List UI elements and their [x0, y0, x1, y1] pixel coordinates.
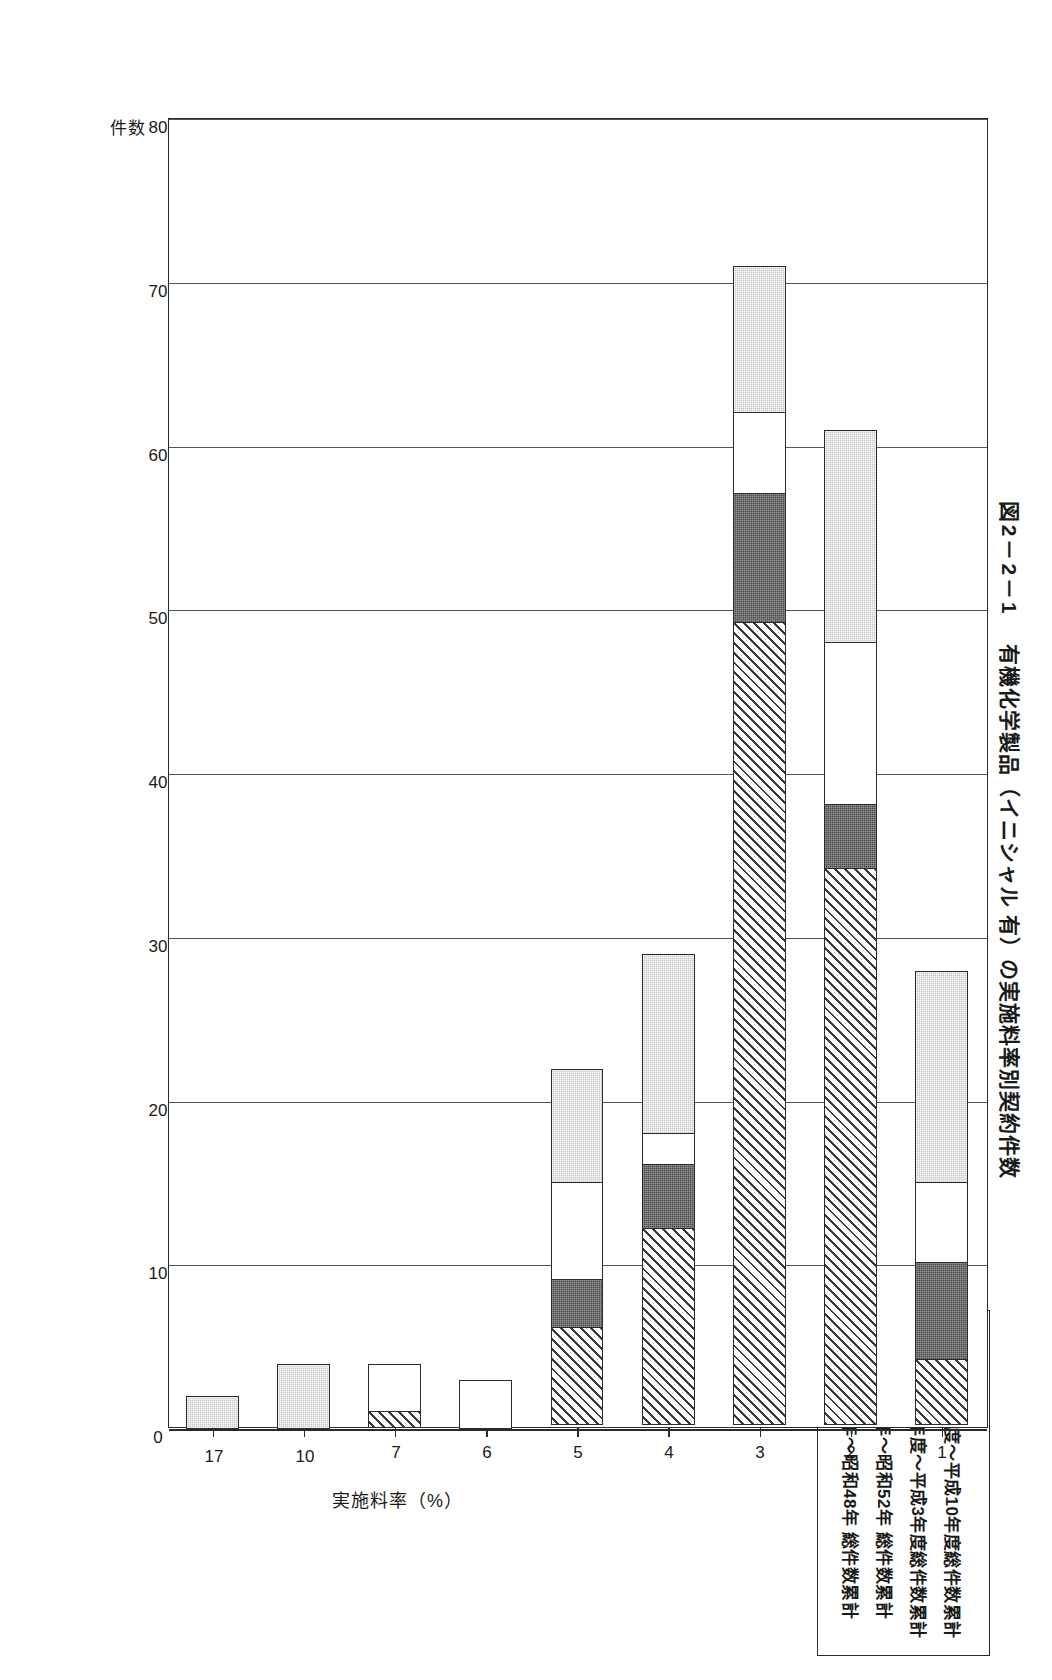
category-axis-tick-label: 5 [573, 1443, 582, 1463]
bar-segment [642, 954, 695, 1134]
bar-segment [824, 430, 877, 643]
gridline [169, 119, 987, 120]
category-axis-tick-label: 1 [938, 1443, 947, 1463]
value-axis-tick-label: 40 [149, 773, 168, 793]
bar [642, 954, 695, 1429]
bar-segment [915, 1359, 968, 1425]
bar [551, 1069, 604, 1429]
category-axis-tick-label: 3 [756, 1443, 765, 1463]
bar-segment [915, 1262, 968, 1360]
category-axis-tick-label: 10 [295, 1447, 314, 1467]
category-tick [486, 1428, 487, 1437]
category-axis-tick-label: 17 [204, 1447, 223, 1467]
category-tick [577, 1428, 578, 1437]
plot-area [168, 118, 988, 1428]
plot-area-wrapper: 01020304050607080 件数 12345671017 実施料率（%） [168, 118, 988, 1428]
bar-segment [642, 1228, 695, 1425]
bar-segment [186, 1396, 239, 1429]
value-axis-tick-label: 10 [149, 1264, 168, 1284]
figure-title-text: 有機化学製品（イニシャル 有）の実施料率別契約件数 [998, 644, 1021, 1179]
category-tick [760, 1428, 761, 1437]
bar-segment [368, 1411, 421, 1427]
bar-segment [459, 1380, 512, 1429]
bar-segment [733, 412, 786, 494]
rotated-figure-canvas: 図2－2－1 有機化学製品（イニシャル 有）の実施料率別契約件数 平成4年度～平… [0, 0, 1052, 1680]
bar-segment [824, 642, 877, 806]
bar [733, 266, 786, 1429]
bar-segment [551, 1279, 604, 1328]
bar-segment [277, 1364, 330, 1430]
bar-segment [915, 971, 968, 1184]
figure-title: 図2－2－1 有機化学製品（イニシャル 有）の実施料率別契約件数 [996, 0, 1026, 1680]
value-axis-tick-label: 30 [149, 937, 168, 957]
bar [824, 430, 877, 1429]
bar-segment [733, 493, 786, 624]
bar [459, 1380, 512, 1429]
category-axis-title: 実施料率（%） [332, 1486, 463, 1512]
category-tick [213, 1428, 214, 1437]
gridline [169, 283, 987, 284]
category-axis-tick-label: 7 [391, 1443, 400, 1463]
bar-segment [824, 804, 877, 870]
bar-segment [551, 1327, 604, 1425]
bar [277, 1364, 330, 1430]
category-tick [942, 1428, 943, 1437]
value-axis-tick-label: 0 [153, 1428, 162, 1448]
category-axis-tick-label: 2 [847, 1443, 856, 1463]
category-tick [304, 1428, 305, 1437]
bar-segment [551, 1182, 604, 1280]
value-axis-tick-label: 20 [149, 1101, 168, 1121]
bar [186, 1396, 239, 1429]
value-axis-tick-label: 80 [149, 118, 168, 138]
category-axis-tick-label: 4 [664, 1443, 673, 1463]
bar-segment [551, 1069, 604, 1184]
bar-segment [733, 622, 786, 1424]
bar [915, 971, 968, 1430]
bar-segment [642, 1164, 695, 1230]
category-tick [851, 1428, 852, 1437]
value-axis-tick-label: 50 [149, 609, 168, 629]
value-axis-tick-label: 60 [149, 446, 168, 466]
value-axis-title: 件数 [110, 114, 146, 139]
category-tick [395, 1428, 396, 1437]
bar-segment [368, 1364, 421, 1413]
bar-segment [824, 868, 877, 1425]
bar-segment [642, 1133, 695, 1166]
bar-segment [733, 266, 786, 413]
bar [368, 1364, 421, 1430]
value-axis-tick-label: 70 [149, 282, 168, 302]
bar-segment [915, 1182, 968, 1264]
figure-number: 図2－2－1 [998, 501, 1021, 617]
category-axis-tick-label: 6 [482, 1443, 491, 1463]
category-tick [668, 1428, 669, 1437]
